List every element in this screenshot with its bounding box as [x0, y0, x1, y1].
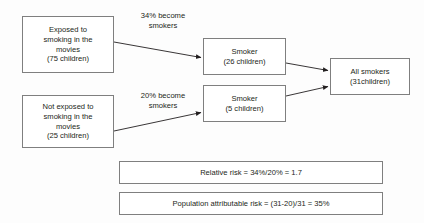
node-all-smokers: All smokers (31children) [330, 58, 410, 95]
node-all-smokers-line2: (31children) [350, 77, 390, 87]
edge-label-not-exposed-rate-line2: smokers [120, 101, 206, 111]
node-smoker-exposed: Smoker (26 children) [203, 38, 286, 75]
node-smoker-not-exposed: Smoker (5 children) [203, 85, 286, 122]
node-exposed-line2: smoking in the [44, 35, 93, 45]
node-population-attributable-risk: Population attributable risk = (31-20)/3… [119, 192, 383, 215]
arrow-smoker-exposed-to-all [286, 63, 328, 71]
node-all-smokers-line1: All smokers [350, 67, 389, 77]
edge-label-not-exposed-rate: 20% become smokers [120, 91, 206, 110]
node-exposed-group: Exposed to smoking in the movies (75 chi… [22, 16, 114, 73]
edge-label-exposed-rate: 34% become smokers [120, 11, 206, 30]
node-not-exposed-line3: movies [56, 122, 80, 132]
arrow-smoker-not-exposed-to-all [286, 87, 328, 97]
node-smoker-not-exposed-line2: (5 children) [226, 104, 264, 114]
node-smoker-not-exposed-line1: Smoker [231, 94, 257, 104]
population-attributable-risk-text: Population attributable risk = (31-20)/3… [172, 199, 329, 209]
node-relative-risk: Relative risk = 34%/20% = 1.7 [119, 161, 383, 184]
arrow-exposed-to-smoker [114, 42, 201, 58]
diagram-canvas: Exposed to smoking in the movies (75 chi… [0, 0, 424, 223]
edge-label-not-exposed-rate-line1: 20% become [120, 91, 206, 101]
node-exposed-line4: (75 children) [47, 54, 89, 64]
node-exposed-line1: Exposed to [49, 25, 87, 35]
node-exposed-line3: movies [56, 45, 80, 55]
relative-risk-text: Relative risk = 34%/20% = 1.7 [200, 168, 302, 178]
node-not-exposed-line1: Not exposed to [42, 102, 93, 112]
arrow-not-exposed-to-smoker [114, 113, 201, 132]
node-not-exposed-line2: smoking in the [44, 112, 93, 122]
node-not-exposed-line4: (25 children) [47, 131, 89, 141]
edge-label-exposed-rate-line2: smokers [120, 21, 206, 31]
node-smoker-exposed-line2: (26 children) [223, 57, 265, 67]
edge-label-exposed-rate-line1: 34% become [120, 11, 206, 21]
node-smoker-exposed-line1: Smoker [231, 47, 257, 57]
node-not-exposed-group: Not exposed to smoking in the movies (25… [22, 95, 114, 148]
